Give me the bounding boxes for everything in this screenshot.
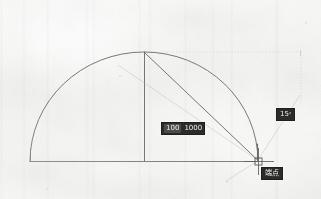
dust-speck	[226, 181, 228, 183]
osnap-label: 端点	[265, 170, 279, 177]
semicircular-arc	[30, 52, 258, 161]
dimension-input-tooltip[interactable]: 100 1000	[161, 122, 205, 135]
angle-input-tooltip[interactable]: 15°	[276, 108, 295, 121]
chord-to-cursor	[145, 53, 258, 161]
dust-speck	[119, 75, 121, 77]
diagonal-tracking-line-lower	[118, 65, 256, 159]
drawing-canvas[interactable]: 100 1000 15° 端点	[0, 0, 321, 199]
angle-unit: °	[289, 112, 292, 117]
dust-speck	[46, 188, 48, 190]
angle-value: 15	[280, 111, 289, 118]
dimension-field-b[interactable]: 1000	[184, 125, 202, 132]
dust-speck	[305, 22, 307, 24]
diagonal-tracking-line-tail	[226, 162, 256, 181]
dimension-field-a[interactable]: 100	[164, 124, 181, 133]
object-snap-tooltip: 端点	[261, 167, 283, 180]
diagonal-tracking-line-upper	[258, 95, 300, 160]
